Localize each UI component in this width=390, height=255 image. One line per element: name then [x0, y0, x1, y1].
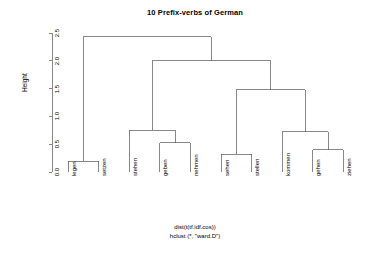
leaf-label-gehen: gehen	[315, 159, 321, 176]
leaf-label-stehen: stehen	[132, 158, 138, 176]
y-axis	[49, 33, 52, 172]
leaf-label-geben: geben	[162, 159, 168, 176]
y-tick-label: 2.0	[54, 57, 60, 65]
leaf-label-nehmen: nehmen	[193, 154, 199, 176]
y-tick-label: 1.0	[54, 112, 60, 120]
leaf-label-setzen: setzen	[101, 158, 107, 176]
leaf-label-stellen: stellen	[254, 159, 260, 176]
y-tick-label: 0.0	[54, 168, 60, 176]
footer-method: hclust (*, "ward.D")	[0, 233, 390, 239]
leaf-label-legen: legen	[71, 161, 77, 176]
leaf-label-kommen: kommen	[285, 153, 291, 176]
leaf-label-ziehen: ziehen	[346, 158, 352, 176]
y-tick-label: 2.5	[54, 29, 60, 37]
dendrogram-plot: 10 Prefix-verbs of German Height 0.00.51…	[0, 0, 390, 255]
y-tick-label: 0.5	[54, 140, 60, 148]
y-tick-label: 1.5	[54, 85, 60, 93]
footer-distance: dist(t(tf.idf.cos))	[0, 224, 390, 230]
dendrogram-canvas	[0, 0, 390, 255]
leaf-label-sehen: sehen	[224, 160, 230, 176]
dendrogram-tree	[68, 37, 343, 172]
